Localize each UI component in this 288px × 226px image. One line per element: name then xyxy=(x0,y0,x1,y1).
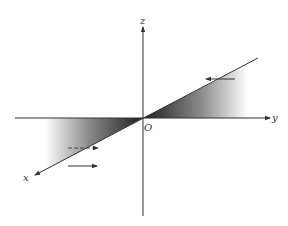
coordinate-diagram: z y x O xyxy=(0,0,288,226)
z-axis-label: z xyxy=(139,15,146,26)
origin-label: O xyxy=(144,122,152,133)
y-axis-label: y xyxy=(271,112,278,123)
x-axis-label: x xyxy=(23,172,29,183)
